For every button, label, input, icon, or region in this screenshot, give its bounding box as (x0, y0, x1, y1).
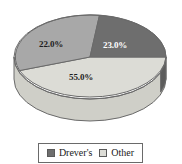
pie-chart-graphic (0, 0, 182, 130)
legend-item-drevers[interactable]: Drever's (47, 148, 92, 158)
pie-label-drevers: 23.0% (103, 41, 127, 50)
pie-label-other-upper: 22.0% (39, 40, 63, 49)
legend-label-drevers: Drever's (59, 148, 92, 158)
pie-chart-screenshot: 23.0% 22.0% 55.0% Drever's Other (0, 0, 182, 164)
legend-swatch-other-icon (99, 149, 107, 157)
pie-chart-figure: 23.0% 22.0% 55.0% (0, 0, 182, 130)
chart-legend: Drever's Other (38, 143, 143, 163)
pie-slice-drevers (90, 15, 166, 57)
legend-swatch-drevers-icon (47, 149, 55, 157)
pie-label-other-main: 55.0% (69, 73, 93, 82)
legend-label-other: Other (111, 148, 134, 158)
legend-item-other[interactable]: Other (99, 148, 134, 158)
